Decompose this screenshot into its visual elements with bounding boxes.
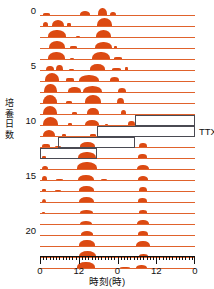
x-axis-major-tick <box>79 256 80 264</box>
activity-burst <box>66 101 72 103</box>
x-axis-minor-tick <box>182 256 183 260</box>
x-axis-minor-tick <box>59 256 60 260</box>
activity-burst <box>95 42 112 48</box>
ttx-annotation-label: TTX <box>199 127 214 137</box>
actogram-row <box>40 203 195 214</box>
activity-burst <box>72 112 78 114</box>
x-axis-minor-tick <box>105 256 106 260</box>
x-axis-minor-tick <box>143 256 144 260</box>
activity-burst <box>114 46 117 47</box>
actogram-row <box>40 71 195 82</box>
activity-burst <box>125 67 128 69</box>
activity-burst <box>80 11 90 15</box>
x-axis-minor-tick <box>43 256 44 260</box>
x-axis-minor-tick <box>140 256 141 260</box>
x-axis-minor-tick <box>72 256 73 260</box>
activity-burst <box>85 95 101 102</box>
actogram-row <box>40 38 195 49</box>
activity-burst <box>77 162 96 168</box>
activity-burst <box>55 190 61 191</box>
x-axis-minor-tick <box>46 256 47 260</box>
activity-burst <box>79 240 95 245</box>
actogram-row <box>40 82 195 93</box>
activity-burst <box>42 144 50 147</box>
x-axis-tick-label: 12 <box>73 266 84 276</box>
x-axis-minor-tick <box>163 256 164 260</box>
actogram-row <box>40 27 195 38</box>
x-axis-minor-tick <box>66 256 67 260</box>
y-axis-tick-label: 20 <box>25 226 36 236</box>
actogram-row <box>40 16 195 27</box>
x-axis-minor-tick <box>192 256 193 260</box>
actogram-row <box>40 170 195 181</box>
x-axis <box>40 256 195 265</box>
activity-burst <box>92 52 109 59</box>
activity-burst <box>79 197 95 202</box>
activity-burst <box>52 20 64 26</box>
x-axis-minor-tick <box>53 256 54 260</box>
x-axis-title: 時刻(時) <box>0 277 214 287</box>
x-axis-minor-tick <box>76 256 77 260</box>
activity-burst <box>79 186 94 191</box>
x-axis-minor-tick <box>63 256 64 260</box>
x-axis-major-tick <box>40 256 41 264</box>
activity-burst <box>42 166 48 169</box>
activity-burst <box>138 198 147 202</box>
activity-burst <box>42 212 45 213</box>
activity-burst <box>136 241 150 246</box>
activity-burst <box>79 75 99 81</box>
activity-burst <box>43 106 58 114</box>
activity-burst <box>46 66 54 70</box>
actogram-row <box>40 49 195 60</box>
activity-burst <box>138 176 148 180</box>
x-axis-minor-tick <box>85 256 86 260</box>
x-axis-minor-tick <box>101 256 102 260</box>
x-axis-minor-tick <box>114 256 115 260</box>
activity-burst <box>44 84 57 92</box>
actogram-row <box>40 5 195 16</box>
x-axis-minor-tick <box>134 256 135 260</box>
activity-burst <box>97 18 113 26</box>
activity-burst <box>114 57 122 59</box>
x-axis-minor-tick <box>172 256 173 260</box>
x-axis-minor-tick <box>121 256 122 260</box>
x-axis-tick-label: 0 <box>192 266 197 276</box>
x-axis-minor-tick <box>69 256 70 260</box>
activity-burst <box>112 68 121 70</box>
activity-burst <box>76 36 81 37</box>
x-axis-minor-tick <box>108 256 109 260</box>
actogram-row <box>40 104 195 115</box>
x-axis-minor-tick <box>185 256 186 260</box>
actogram-row <box>40 60 195 71</box>
actogram-row <box>40 159 195 170</box>
actogram-plot-area: 05101520 <box>40 5 195 253</box>
x-axis-minor-tick <box>176 256 177 260</box>
activity-burst <box>118 88 126 92</box>
x-axis-major-tick <box>194 256 195 264</box>
y-axis-tick-label: 0 <box>31 6 36 16</box>
activity-burst <box>43 95 57 103</box>
x-axis-tick-label: 12 <box>151 266 162 276</box>
activity-burst <box>62 134 67 135</box>
x-axis-minor-tick <box>166 256 167 260</box>
x-axis-minor-tick <box>169 256 170 260</box>
x-axis-tick-label: 0 <box>115 266 120 276</box>
x-axis-minor-tick <box>159 256 160 260</box>
activity-burst <box>43 130 55 136</box>
activity-burst <box>49 41 65 48</box>
x-axis-minor-tick <box>147 256 148 260</box>
y-axis-tick-label: 10 <box>25 116 36 126</box>
activity-burst <box>121 110 126 114</box>
activity-burst <box>48 52 65 59</box>
x-axis-minor-tick <box>98 256 99 260</box>
activity-burst <box>67 23 71 25</box>
x-axis-minor-tick <box>124 256 125 260</box>
x-axis-minor-tick <box>153 256 154 260</box>
activity-burst <box>87 108 99 114</box>
activity-burst <box>42 199 47 202</box>
actogram-row <box>40 236 195 247</box>
x-axis-major-tick <box>156 256 157 264</box>
activity-burst <box>69 69 74 70</box>
activity-burst <box>68 123 73 124</box>
activity-burst <box>43 13 50 15</box>
